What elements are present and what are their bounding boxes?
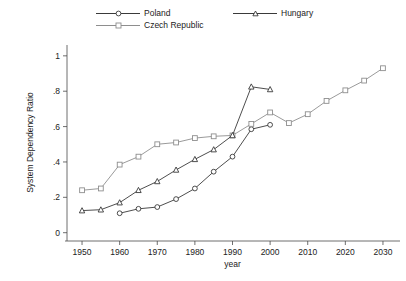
data-point-square — [249, 122, 254, 127]
data-point-triangle — [136, 187, 141, 192]
data-point-square — [287, 121, 292, 126]
data-point-circle — [249, 127, 254, 132]
x-tick-label: 1980 — [185, 247, 204, 257]
data-point-square — [117, 162, 122, 167]
series-line-czech-republic — [82, 68, 383, 190]
y-tick-label: .6 — [53, 122, 60, 132]
x-tick-label: 2020 — [336, 247, 355, 257]
data-point-triangle — [211, 147, 216, 152]
x-tick-label: 1970 — [148, 247, 167, 257]
data-point-circle — [117, 211, 122, 216]
y-tick-label: 1 — [55, 51, 60, 61]
data-point-circle — [268, 122, 273, 127]
x-tick-label: 2000 — [261, 247, 280, 257]
x-tick-label: 2010 — [298, 247, 317, 257]
data-point-square — [192, 136, 197, 141]
data-point-triangle — [249, 84, 254, 89]
data-point-square — [98, 186, 103, 191]
data-point-circle — [192, 186, 197, 191]
x-axis-title: year — [224, 259, 241, 269]
x-tick-label: 1960 — [110, 247, 129, 257]
x-tick-label: 1990 — [223, 247, 242, 257]
data-point-square — [343, 88, 348, 93]
y-tick-label: .8 — [53, 86, 60, 96]
data-point-square — [268, 110, 273, 115]
data-point-triangle — [155, 179, 160, 184]
y-tick-label: 0 — [55, 228, 60, 238]
data-point-triangle — [192, 156, 197, 161]
data-point-circle — [230, 154, 235, 159]
data-point-square — [324, 99, 329, 104]
data-point-square — [381, 66, 386, 71]
data-point-square — [155, 142, 160, 147]
y-axis-title: System Dependency Ratio — [25, 92, 35, 193]
data-point-square — [211, 134, 216, 139]
x-tick-label: 1950 — [73, 247, 92, 257]
data-point-circle — [155, 205, 160, 210]
data-point-triangle — [173, 167, 178, 172]
y-tick-label: .4 — [53, 157, 60, 167]
data-point-square — [80, 188, 85, 193]
data-point-circle — [174, 197, 179, 202]
data-point-square — [362, 78, 367, 83]
y-tick-label: .2 — [53, 192, 60, 202]
data-point-square — [174, 140, 179, 145]
data-point-square — [305, 112, 310, 117]
plot-area: 0.2.4.6.81195019601970198019902000201020… — [0, 0, 406, 281]
data-point-square — [136, 154, 141, 159]
data-point-circle — [136, 206, 141, 211]
data-point-circle — [211, 169, 216, 174]
chart-container: Poland Czech Republic Hungary 0.2.4.6.81… — [0, 0, 406, 281]
x-tick-label: 2030 — [373, 247, 392, 257]
series-line-hungary — [82, 87, 270, 211]
data-point-triangle — [117, 200, 122, 205]
